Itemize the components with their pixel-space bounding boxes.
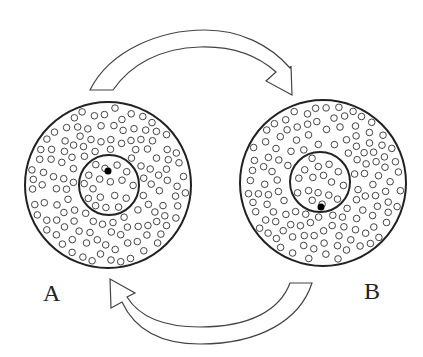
state-b-circle [240,100,406,266]
label-b: B [364,278,380,305]
arrow-a-to-b [90,30,292,95]
diagram: A B [0,0,423,357]
label-a: A [43,280,60,307]
exchange-diagram [0,0,423,357]
arrow-b-to-a [110,279,312,344]
state-a-circle [25,102,191,268]
